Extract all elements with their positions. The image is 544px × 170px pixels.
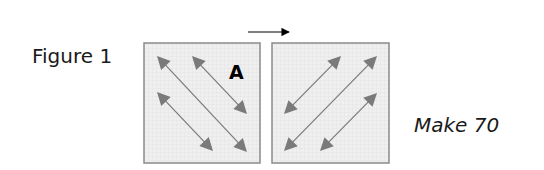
diagram-canvas: A — [0, 0, 544, 170]
square-A: A — [144, 43, 260, 163]
square-B — [272, 43, 389, 163]
square-label: A — [229, 61, 244, 83]
